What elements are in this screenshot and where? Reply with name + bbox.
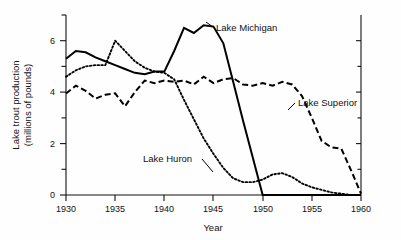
x-tick-label-1945: 1945	[203, 204, 223, 214]
x-axis-title: Year	[203, 222, 222, 233]
y-axis-title-line2: (millions of pounds)	[22, 64, 33, 146]
annotation-lake-superior: Lake Superior	[298, 97, 357, 108]
leader-lake-superior	[288, 103, 295, 110]
y-tick-label-4: 4	[50, 87, 55, 97]
x-tick-label-1930: 1930	[56, 204, 76, 214]
leader-lake-huron	[202, 159, 213, 172]
x-tick-label-1960: 1960	[351, 204, 371, 214]
annotation-lake-huron: Lake Huron	[143, 153, 192, 164]
chart-figure: 0 2 4 6 1930 1935 1940 1945 1950 1955 19…	[0, 0, 401, 240]
series-line-lake-superior	[66, 77, 361, 194]
y-axis-title-line1: Lake trout production	[10, 60, 21, 149]
y-tick-label-6: 6	[50, 36, 55, 46]
y-tick-label-0: 0	[50, 190, 55, 200]
line-chart: 0 2 4 6 1930 1935 1940 1945 1950 1955 19…	[0, 0, 401, 240]
y-tick-label-2: 2	[50, 139, 55, 149]
x-tick-label-1955: 1955	[302, 204, 322, 214]
x-tick-label-1950: 1950	[253, 204, 273, 214]
x-tick-label-1935: 1935	[105, 204, 125, 214]
x-tick-label-1940: 1940	[154, 204, 174, 214]
annotation-lake-michigan: Lake Michigan	[216, 22, 277, 33]
